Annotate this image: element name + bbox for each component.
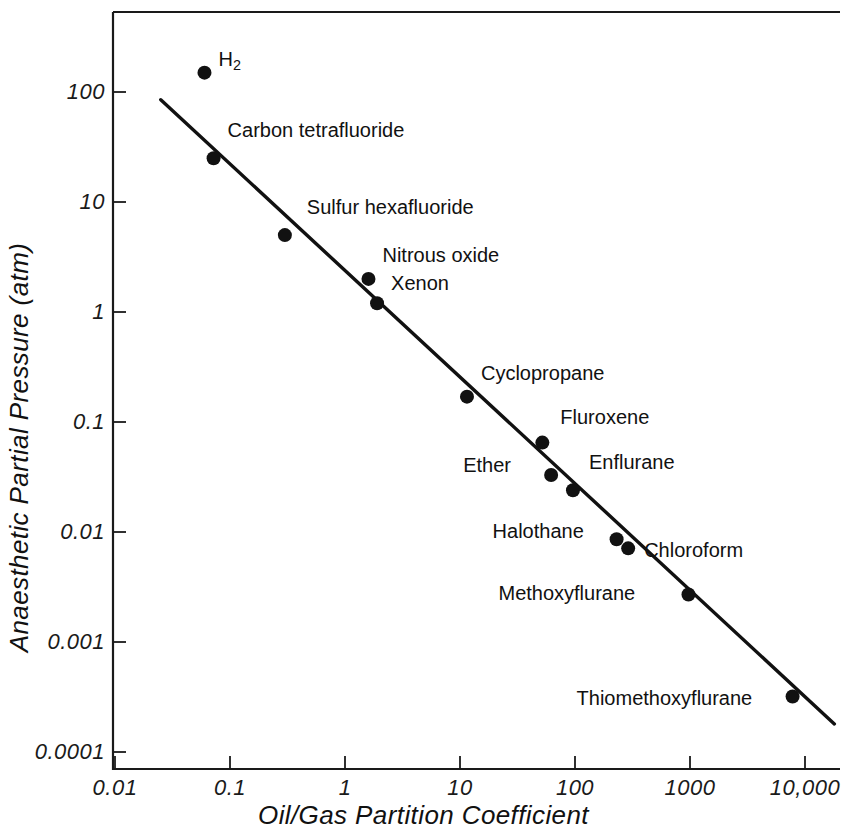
point-label: Enflurane: [589, 452, 675, 472]
point-label: Halothane: [493, 521, 584, 541]
y-axis-title: Anaesthetic Partial Pressure (atm): [0, 0, 31, 835]
x-tick-label: 0.1: [214, 775, 246, 801]
x-tick-label: 1: [339, 775, 352, 801]
y-axis-title-text: Anaesthetic Partial Pressure (atm): [4, 30, 35, 835]
y-tick-label: 100: [67, 79, 105, 105]
point-label: Carbon tetrafluoride: [228, 120, 405, 140]
point-label: Methoxyflurane: [498, 583, 635, 603]
y-tick-label: 0.01: [60, 519, 105, 545]
regression-line: [161, 100, 835, 724]
y-tick-label: 0.0001: [35, 739, 105, 765]
point-label: Thiomethoxyflurane: [577, 688, 753, 708]
point-label: Chloroform: [644, 540, 743, 560]
axis-ticks: [113, 92, 805, 769]
x-tick-label: 100: [556, 775, 594, 801]
point-label: Fluroxene: [560, 407, 649, 427]
plot-canvas: [0, 0, 847, 835]
x-tick-label: 10,000: [770, 775, 840, 801]
point-label: H2: [218, 49, 240, 69]
y-tick-label: 10: [80, 189, 105, 215]
x-tick-label: 10: [447, 775, 472, 801]
point-label: Xenon: [391, 273, 449, 293]
x-axis-title: Oil/Gas Partition Coefficient: [0, 800, 847, 831]
anaesthetic-partial-pressure-chart: H2Carbon tetrafluorideSulfur hexafluorid…: [0, 0, 847, 835]
point-label: Sulfur hexafluoride: [307, 197, 474, 217]
y-tick-label: 0.001: [47, 629, 105, 655]
x-tick-label: 1000: [665, 775, 716, 801]
point-label: Ether: [463, 455, 511, 475]
x-tick-label: 0.01: [93, 775, 138, 801]
y-tick-label: 1: [92, 299, 105, 325]
point-label: Nitrous oxide: [382, 245, 499, 265]
y-tick-label: 0.1: [73, 409, 105, 435]
point-label: Cyclopropane: [481, 363, 604, 383]
